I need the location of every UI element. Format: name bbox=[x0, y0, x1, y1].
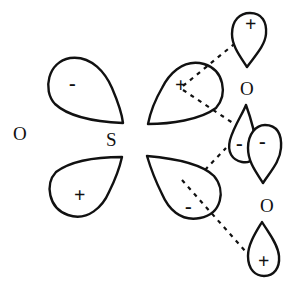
lobe-s-lower-right bbox=[147, 156, 221, 219]
sign-s-upper-right: + bbox=[175, 74, 186, 96]
lobe-s-lower-left bbox=[50, 157, 122, 217]
orbital-diagram: O S O O - + + - + - - + bbox=[0, 0, 286, 285]
atom-label-o-right-bottom: O bbox=[260, 195, 274, 216]
sign-o1-top: + bbox=[245, 13, 256, 35]
sign-s-upper-left: - bbox=[69, 72, 76, 94]
atom-label-s: S bbox=[106, 129, 117, 150]
atom-label-o-left: O bbox=[13, 123, 27, 144]
atom-label-o-right-top: O bbox=[240, 78, 254, 99]
dashed-line-lower-to-o2-top bbox=[205, 148, 226, 170]
sign-s-lower-right: - bbox=[185, 195, 192, 217]
sign-s-lower-left: + bbox=[74, 184, 85, 206]
sign-o2-top: - bbox=[259, 130, 266, 152]
sign-o1-bottom: - bbox=[236, 132, 243, 154]
sign-o2-bottom: + bbox=[258, 250, 269, 272]
lobe-s-upper-left bbox=[48, 58, 123, 123]
